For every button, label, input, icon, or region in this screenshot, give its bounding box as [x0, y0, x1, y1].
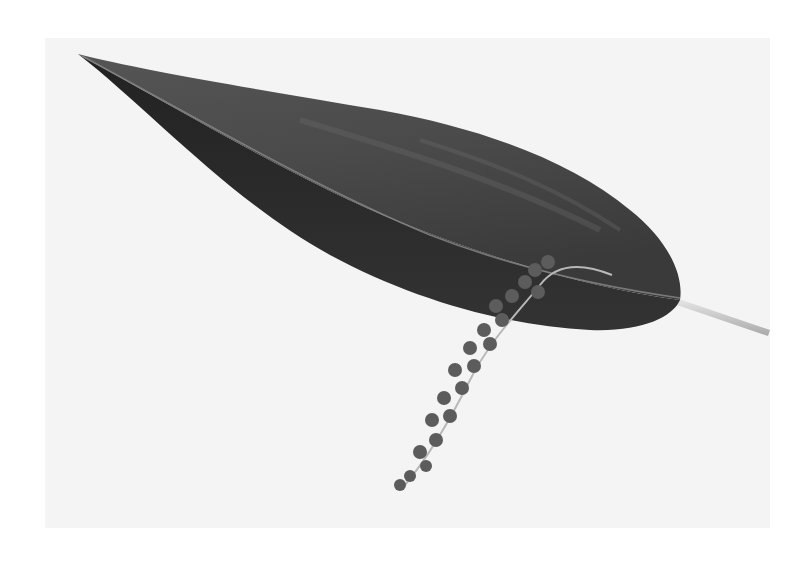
- leaf-stem: [674, 298, 770, 336]
- photograph: [45, 38, 770, 528]
- leaf-illustration: [0, 0, 811, 563]
